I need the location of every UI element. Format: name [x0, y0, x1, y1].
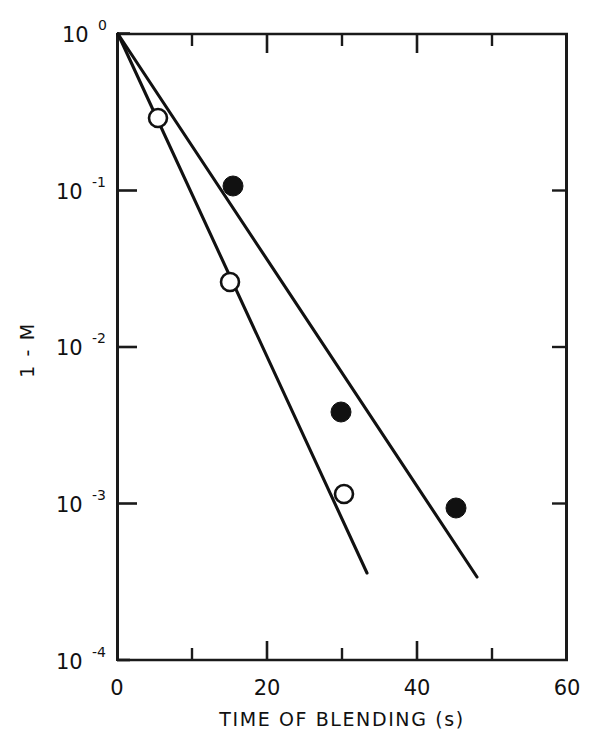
y-tick-label-1e-1-base: 10 [56, 180, 83, 204]
x-tick-label-0: 0 [110, 676, 123, 700]
data-point-filled-3 [446, 498, 466, 518]
y-tick-label-1e-1: 10 -1 [56, 174, 106, 204]
figure-container: 10 0 10 -1 10 -2 10 -3 10 -4 0 20 [0, 0, 592, 737]
data-point-filled-1 [223, 176, 243, 196]
y-tick-label-1e-3-exponent: -3 [92, 487, 106, 503]
data-point-filled-2 [331, 402, 351, 422]
y-tick-label-1e0: 10 0 [62, 17, 107, 47]
shallow-fit-line [118, 34, 477, 577]
y-tick-label-1e-2-exponent: -2 [92, 330, 106, 346]
x-tick-label-40: 40 [404, 676, 431, 700]
y-tick-label-1e-1-exponent: -1 [92, 174, 106, 190]
data-point-open-2 [221, 273, 239, 291]
fit-lines [118, 34, 477, 577]
x-tick-labels: 0 20 40 60 [110, 676, 580, 700]
y-tick-label-1e-4: 10 -4 [56, 644, 106, 674]
y-tick-label-1e0-exponent: 0 [98, 17, 107, 33]
y-tick-label-1e0-base: 10 [62, 23, 89, 47]
y-tick-label-1e-4-base: 10 [56, 650, 83, 674]
y-tick-label-1e-3-base: 10 [56, 493, 83, 517]
y-axis-ticks [117, 34, 137, 661]
y-axis-right-ticks [552, 191, 567, 504]
x-tick-label-20: 20 [254, 676, 281, 700]
y-tick-labels: 10 0 10 -1 10 -2 10 -3 10 -4 [56, 17, 107, 674]
data-point-open-3 [335, 485, 353, 503]
x-axis-title: TIME OF BLENDING (s) [218, 708, 464, 730]
plot-frame [117, 33, 568, 661]
x-tick-label-60: 60 [554, 676, 581, 700]
chart-svg: 10 0 10 -1 10 -2 10 -3 10 -4 0 20 [0, 0, 592, 737]
y-tick-label-1e-2: 10 -2 [56, 330, 106, 360]
y-axis-title: 1 - M [16, 322, 38, 377]
x-axis-ticks [192, 34, 492, 660]
y-tick-label-1e-4-exponent: -4 [92, 644, 106, 660]
data-point-open-1 [149, 109, 167, 127]
y-tick-label-1e-3: 10 -3 [56, 487, 106, 517]
y-tick-label-1e-2-base: 10 [56, 336, 83, 360]
data-markers-filled [223, 176, 466, 518]
